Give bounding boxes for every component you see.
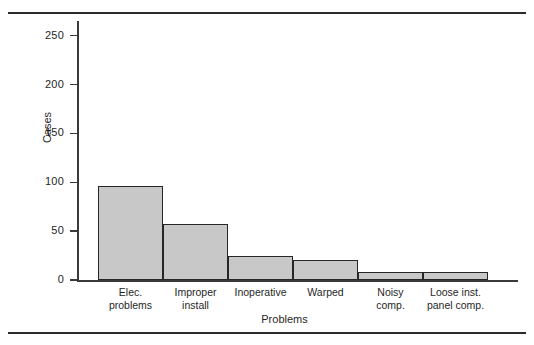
pareto-bar-chart: Cases Problems 050100150200250 Elec.prob… <box>0 0 534 345</box>
y-tick-mark <box>70 133 78 134</box>
bar <box>293 260 358 280</box>
y-tick-mark <box>70 35 78 36</box>
bar <box>163 224 228 280</box>
bar <box>98 186 163 280</box>
bar <box>358 272 423 280</box>
x-axis-title: Problems <box>77 314 492 325</box>
y-tick-label: 0 <box>22 274 64 285</box>
y-tick-mark <box>70 84 78 85</box>
y-tick-label: 100 <box>22 176 64 187</box>
y-tick-mark <box>70 230 78 231</box>
bar <box>423 272 488 280</box>
y-axis-line <box>77 21 79 281</box>
y-tick-label: 200 <box>22 79 64 90</box>
category-label-line: Loose inst. <box>417 286 494 299</box>
category-label-line: install <box>157 299 234 312</box>
y-tick-label: 250 <box>22 30 64 41</box>
category-label-line: panel comp. <box>417 299 494 312</box>
x-axis-line <box>77 280 518 282</box>
y-tick-label: 150 <box>22 127 64 138</box>
y-tick-label: 50 <box>22 225 64 236</box>
y-tick-mark <box>70 182 78 183</box>
bar <box>228 256 293 280</box>
y-tick-mark <box>70 279 78 280</box>
category-label: Loose inst.panel comp. <box>417 286 494 311</box>
top-divider-rule <box>8 12 526 14</box>
bottom-divider-rule <box>8 332 526 334</box>
